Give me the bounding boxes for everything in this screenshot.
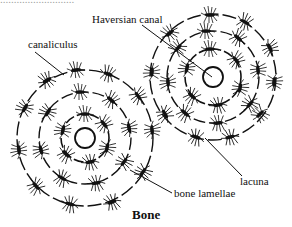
haversian-canal-left [75,128,95,148]
left-lacunae [9,60,162,215]
bone-diagram [0,0,292,227]
right-lacunae [142,6,284,149]
figure-caption: Bone [132,208,160,222]
canaliculus-label: canaliculus [28,38,77,50]
canaliculus-leader [35,52,64,75]
haversian-canal-label: Haversian canal [92,13,163,25]
bone-lamellae-label: bone lamellae [174,187,235,199]
bone-lamellae-leader [130,170,172,193]
haversian-canal-right [203,67,223,87]
lacuna-leader [205,138,242,176]
lacuna-label: lacuna [240,175,269,187]
